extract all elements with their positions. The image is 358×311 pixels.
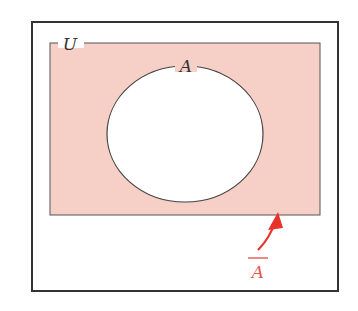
set-a-label: A <box>178 56 192 76</box>
complement-label: A <box>250 262 264 282</box>
set-a-circle <box>107 66 263 202</box>
venn-diagram: U A A <box>0 0 358 311</box>
universe-label: U <box>63 34 78 54</box>
